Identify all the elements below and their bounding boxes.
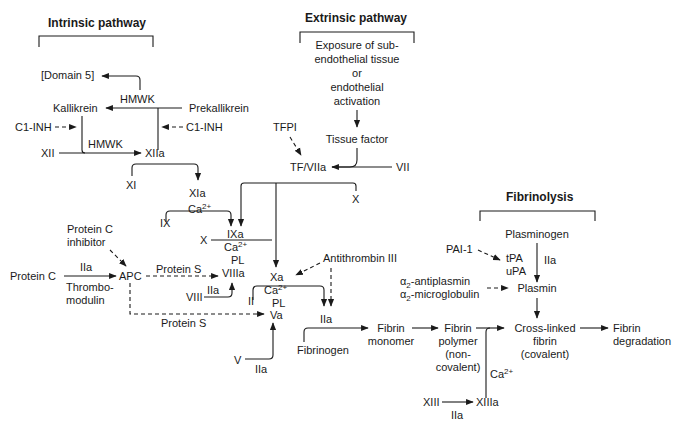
v-label: V bbox=[234, 354, 242, 366]
fibrin-monomer-line1: Fibrin bbox=[377, 322, 405, 334]
iia-viii-label: IIa bbox=[207, 284, 220, 296]
viii-label: VIII bbox=[186, 291, 203, 303]
xi-to-xia-arrow bbox=[132, 164, 198, 180]
ca-xa-label: Ca2+ bbox=[264, 283, 288, 296]
tfpi-inhibit-arrow bbox=[290, 137, 301, 155]
fibrinolysis-bracket bbox=[480, 211, 595, 221]
c1inh-right-label: C1-INH bbox=[186, 121, 223, 133]
hmwk-to-domain5-arrow bbox=[102, 76, 140, 90]
kallikrein-label: Kallikrein bbox=[53, 102, 98, 114]
fibrin-polymer-line4: covalent) bbox=[436, 361, 481, 373]
fibrinolysis-iia-label: IIa bbox=[544, 254, 557, 266]
fibrin-monomer-line2: monomer bbox=[368, 335, 415, 347]
xia-label: XIa bbox=[189, 187, 206, 199]
tf-viia-label: TF/VIIa bbox=[290, 161, 327, 173]
xiii-label: XIII bbox=[423, 396, 440, 408]
plasmin-label: Plasmin bbox=[517, 282, 556, 294]
pl-ixa-label: PL bbox=[231, 254, 244, 266]
protein-c-inhibitor-line2: inhibitor bbox=[67, 236, 106, 248]
protein-c-inhibitor-line1: Protein C bbox=[67, 223, 113, 235]
antithrombin-label: Antithrombin III bbox=[323, 252, 397, 264]
viiia-label: VIIIa bbox=[222, 267, 246, 279]
apc-label: APC bbox=[119, 270, 142, 282]
ca-xiii-label: Ca2+ bbox=[490, 367, 514, 380]
degradation-line2: degradation bbox=[613, 335, 671, 347]
crosslinked-line1: Cross-linked bbox=[514, 322, 575, 334]
coagulation-cascade-diagram: Intrinsic pathway Extrinsic pathway Fibr… bbox=[0, 0, 682, 427]
xi-label: XI bbox=[126, 179, 136, 191]
vii-label: VII bbox=[396, 161, 409, 173]
pai1-label: PAI-1 bbox=[446, 243, 473, 255]
x-left-label: X bbox=[200, 234, 208, 246]
xa-label: Xa bbox=[270, 271, 284, 283]
c1inh-left-label: C1-INH bbox=[15, 121, 52, 133]
xiiia-to-crosslink-line bbox=[486, 328, 490, 398]
iia-v-label: IIa bbox=[255, 363, 268, 375]
exposure-line4: endothelial bbox=[330, 81, 383, 93]
v-to-va-arrow bbox=[245, 323, 273, 359]
tfviia-to-ixa-arrow bbox=[241, 183, 356, 226]
extrinsic-pathway-header: Extrinsic pathway bbox=[305, 11, 407, 25]
prekallikrein-label: Prekallikrein bbox=[189, 102, 249, 114]
pai1-inhibit-arrow bbox=[478, 250, 500, 260]
x-right-label: X bbox=[352, 193, 360, 205]
exposure-line5: activation bbox=[334, 95, 380, 107]
ca-ix-label: Ca2+ bbox=[188, 202, 212, 215]
degradation-line1: Fibrin bbox=[613, 322, 641, 334]
antithrombin-xa-inhibit-arrow bbox=[296, 263, 320, 275]
xiia-label: XIIa bbox=[145, 147, 165, 159]
fibrin-polymer-line1: Fibrin bbox=[444, 322, 472, 334]
fibrinogen-to-monomer-arrow bbox=[304, 328, 368, 342]
fibrin-polymer-line2: polymer bbox=[438, 335, 477, 347]
domain5-label: [Domain 5] bbox=[41, 69, 94, 81]
ix-label: IX bbox=[160, 217, 171, 229]
protein-s-bottom-label: Protein S bbox=[161, 317, 206, 329]
intrinsic-bracket bbox=[39, 36, 153, 47]
xii-label: XII bbox=[41, 147, 54, 159]
fibrin-polymer-line3: (non- bbox=[445, 348, 471, 360]
iia-label: IIa bbox=[320, 313, 333, 325]
protein-c-inhibitor-arrow bbox=[110, 250, 126, 266]
crosslinked-line2: fibrin bbox=[533, 335, 557, 347]
thrombomodulin-line2: modulin bbox=[66, 294, 105, 306]
plasminogen-label: Plasminogen bbox=[505, 228, 569, 240]
upa-label: uPA bbox=[506, 265, 527, 277]
ii-label: II bbox=[248, 295, 254, 307]
exposure-line2: endothelial tissue bbox=[314, 53, 399, 65]
thrombomodulin-line1: Thrombo- bbox=[66, 281, 114, 293]
protein-c-iia-label: IIa bbox=[80, 261, 93, 273]
hmwk-top-label: HMWK bbox=[120, 93, 155, 105]
fibrinolysis-header: Fibrinolysis bbox=[506, 190, 574, 204]
intrinsic-pathway-header: Intrinsic pathway bbox=[48, 16, 146, 30]
va-label: Va bbox=[270, 309, 284, 321]
exposure-line3: or bbox=[352, 67, 362, 79]
tfpi-label: TFPI bbox=[273, 121, 297, 133]
crosslinked-line3: (covalent) bbox=[521, 348, 569, 360]
protein-s-top-label: Protein S bbox=[156, 263, 201, 275]
tissue-factor-label: Tissue factor bbox=[326, 133, 389, 145]
tf-to-tfviia-line bbox=[332, 148, 357, 167]
exposure-line1: Exposure of sub- bbox=[315, 39, 398, 51]
kallikrein-feedback-line bbox=[82, 116, 85, 153]
xiiia-label: XIIIa bbox=[476, 396, 500, 408]
fibrinogen-label: Fibrinogen bbox=[297, 344, 349, 356]
microglobulin-label: α2-microglobulin bbox=[400, 288, 479, 303]
tpa-label: tPA bbox=[506, 252, 524, 264]
iia-xiii-label: IIa bbox=[451, 409, 464, 421]
ca-ixa-label: Ca2+ bbox=[224, 240, 248, 253]
ixa-label: IXa bbox=[227, 228, 244, 240]
pl-xa-label: PL bbox=[272, 297, 285, 309]
protein-c-label: Protein C bbox=[10, 270, 56, 282]
hmwk-mid-label: HMWK bbox=[88, 138, 123, 150]
